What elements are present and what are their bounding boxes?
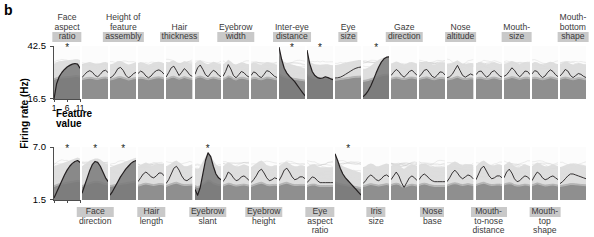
feature-label: Mouth-bottomshape <box>558 13 589 42</box>
x-tick-label: 1 <box>52 103 57 113</box>
tuning-curve-panel[interactable] <box>195 147 221 200</box>
tuning-curve-panel[interactable] <box>532 147 558 200</box>
feature-label-line: size <box>367 217 386 227</box>
feature-label: Facedirection <box>77 207 113 226</box>
feature-label-line: direction <box>77 217 113 227</box>
significance-asterisk: * <box>346 146 350 152</box>
tuning-curve-panel[interactable] <box>560 147 586 200</box>
y-tick-0 <box>50 46 53 47</box>
feature-label-line: slant <box>189 217 226 227</box>
significance-asterisk: * <box>93 146 97 152</box>
tuning-curve-panel[interactable] <box>82 46 108 99</box>
feature-label-line: distance <box>273 32 311 42</box>
tuning-curve-panel[interactable] <box>82 147 108 200</box>
x-tick-2 <box>80 200 81 203</box>
tuning-curve-panel[interactable] <box>110 46 136 99</box>
tuning-curve-panel[interactable] <box>419 147 445 200</box>
tuning-curve-panel[interactable] <box>54 147 80 200</box>
tuning-curve-panel[interactable] <box>391 46 417 99</box>
feature-label-line: shape <box>558 32 589 42</box>
feature-label: Mouth-topshape <box>529 207 560 236</box>
significance-asterisk: * <box>65 45 69 51</box>
y-axis-title: Firing rate (Hz) <box>19 44 30 184</box>
tuning-curve-panel[interactable] <box>251 147 277 200</box>
x-axis-title-line2: value <box>56 119 92 129</box>
tuning-curve-panel[interactable] <box>54 46 80 99</box>
feature-label: Eyesize <box>338 23 357 42</box>
tuning-curve-panel[interactable] <box>279 46 305 99</box>
feature-label-line: altitude <box>445 32 477 42</box>
feature-label: Mouth-size <box>501 23 532 42</box>
tuning-curve-panel[interactable] <box>447 147 473 200</box>
tuning-curve-panel[interactable] <box>251 46 277 99</box>
y-tick-label: 1.5 <box>8 194 46 205</box>
feature-label-line: thickness <box>160 32 200 42</box>
significance-asterisk: * <box>121 146 125 152</box>
significance-asterisk: * <box>374 45 378 51</box>
feature-label: Height offeatureassembly <box>103 13 143 42</box>
tuning-curve-panel[interactable] <box>504 46 530 99</box>
tuning-curve-panel[interactable] <box>166 46 192 99</box>
feature-label-line: size <box>338 32 357 42</box>
tuning-curve-panel[interactable] <box>560 46 586 99</box>
feature-label: Eyebrowwidth <box>217 23 254 42</box>
feature-label: Eyebrowslant <box>189 207 226 226</box>
x-tick-label: 11 <box>76 103 85 113</box>
feature-label: Eyeaspectratio <box>305 207 334 236</box>
tuning-curve-panel[interactable] <box>138 46 164 99</box>
significance-asterisk: * <box>318 45 322 51</box>
tuning-curve-panel[interactable] <box>447 46 473 99</box>
feature-label-line: size <box>501 32 532 42</box>
feature-label-line: distance <box>471 226 507 236</box>
tuning-curve-panel[interactable] <box>391 147 417 200</box>
feature-label-line: direction <box>386 32 422 42</box>
tuning-curve-panel[interactable] <box>223 147 249 200</box>
tuning-curve-panel[interactable] <box>279 147 305 200</box>
x-tick-1 <box>67 99 68 102</box>
feature-label-line: base <box>420 217 444 227</box>
tuning-curve-panel[interactable] <box>419 46 445 99</box>
significance-asterisk: * <box>206 146 210 152</box>
feature-label: Nosebase <box>420 207 444 226</box>
feature-label: Irissize <box>367 207 386 226</box>
tuning-curve-panel[interactable] <box>363 147 389 200</box>
significance-asterisk: * <box>290 45 294 51</box>
tuning-curve-panel[interactable] <box>335 46 361 99</box>
tuning-curve-panel[interactable] <box>307 147 333 200</box>
tuning-curve-panel[interactable] <box>307 46 333 99</box>
x-tick-2 <box>80 99 81 102</box>
x-tick-0 <box>54 200 55 203</box>
feature-label-line: height <box>245 217 282 227</box>
feature-label-line: ratio <box>52 32 81 42</box>
panel-letter: b <box>4 2 13 18</box>
feature-label: Faceaspectratio <box>52 13 81 42</box>
tuning-curve-panel[interactable] <box>476 147 502 200</box>
significance-asterisk: * <box>65 146 69 152</box>
feature-label: Inter-eyedistance <box>273 23 311 42</box>
x-axis-title: Feature value <box>56 109 92 129</box>
y-tick-label: 16.5 <box>8 93 46 104</box>
feature-label-line: assembly <box>103 32 143 42</box>
tuning-curve-panel[interactable] <box>166 147 192 200</box>
tuning-curve-panel[interactable] <box>476 46 502 99</box>
tuning-curve-panel[interactable] <box>195 46 221 99</box>
feature-label-line: ratio <box>305 226 334 236</box>
y-tick-label: 42.5 <box>8 40 46 51</box>
tuning-curve-panel[interactable] <box>504 147 530 200</box>
tuning-curve-panel[interactable] <box>110 147 136 200</box>
tuning-curve-panel[interactable] <box>223 46 249 99</box>
x-tick-0 <box>54 99 55 102</box>
feature-label: Nosealtitude <box>445 23 477 42</box>
feature-label: Eyebrowheight <box>245 207 282 226</box>
feature-label-line: shape <box>529 226 560 236</box>
y-tick-label: 7.0 <box>8 141 46 152</box>
feature-label: Mouth-to-nosedistance <box>471 207 507 236</box>
tuning-curve-panel[interactable] <box>335 147 361 200</box>
y-tick-0 <box>50 147 53 148</box>
tuning-curve-panel[interactable] <box>532 46 558 99</box>
feature-label: Gazedirection <box>386 23 422 42</box>
tuning-curve-panel[interactable] <box>138 147 164 200</box>
feature-label: Hairthickness <box>160 23 200 42</box>
feature-label-line: width <box>217 32 254 42</box>
tuning-curve-panel[interactable] <box>363 46 389 99</box>
